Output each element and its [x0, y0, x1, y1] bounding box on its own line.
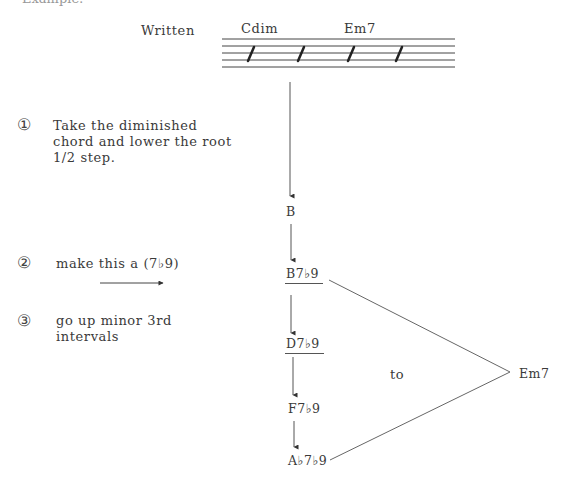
step-2-line-1: make this a (7♭9)	[56, 256, 179, 272]
step-3-line-1: go up minor 3rd	[56, 313, 172, 329]
rhythm-slashes	[248, 47, 402, 61]
staff	[222, 39, 455, 67]
connector-to: to	[390, 367, 404, 383]
step-1-line-3: 1/2 step.	[53, 150, 116, 166]
target-em7: Em7	[519, 366, 549, 381]
chord-ab7b9: A♭7♭9	[288, 453, 327, 468]
step-3-line-2: intervals	[56, 329, 119, 345]
step-3-number: ③	[17, 311, 31, 330]
chord-f7b9: F7♭9	[288, 401, 320, 416]
chord-b7b9: B7♭9	[285, 266, 323, 284]
root-b: B	[286, 204, 296, 219]
step-1-number: ①	[17, 115, 31, 134]
chord-d7b9: D7♭9	[285, 336, 324, 354]
step-1-line-1: Take the diminished	[53, 118, 198, 134]
step-2-number: ②	[17, 253, 31, 272]
diagram-lines	[0, 0, 572, 481]
step-1-line-2: chord and lower the root	[53, 134, 232, 150]
